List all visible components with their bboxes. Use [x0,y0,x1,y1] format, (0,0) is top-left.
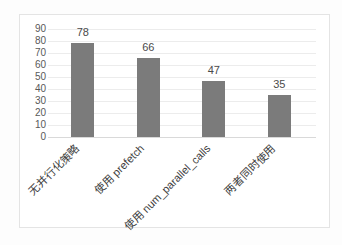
y-axis-tick-label: 50 [20,71,46,83]
x-axis-category-label: 两者同时使用 [223,142,278,197]
bar-value-label: 78 [63,26,103,39]
y-axis-tick-label: 20 [20,107,46,119]
y-axis-tick-label: 40 [20,83,46,95]
bar-value-label: 66 [128,41,168,54]
bar [268,95,291,137]
y-axis-tick-label: 0 [20,131,46,143]
bar [71,43,94,137]
x-axis-category-label: 使用 prefetch [92,142,146,196]
y-axis-tick-label: 30 [20,95,46,107]
bar [202,81,225,137]
y-gridline [48,41,316,42]
bar-chart: 010203040506070809078无并行化策略66使用 prefetch… [19,14,330,228]
y-axis-tick-label: 90 [20,23,46,35]
y-axis-tick-label: 60 [20,59,46,71]
y-axis-tick-label: 70 [20,47,46,59]
y-axis-tick-label: 10 [20,119,46,131]
x-axis-line [48,137,316,138]
bar-value-label: 35 [259,78,299,91]
y-axis-tick-label: 80 [20,35,46,47]
screenshot-canvas: 010203040506070809078无并行化策略66使用 prefetch… [0,0,342,245]
x-axis-category-label: 无并行化策略 [26,142,81,197]
bar-value-label: 47 [194,64,234,77]
bar [137,58,160,137]
